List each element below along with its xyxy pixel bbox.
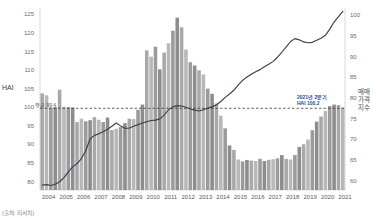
bar [293, 155, 297, 190]
average-annotation: 평균 99.4 [35, 101, 56, 108]
bar [315, 122, 319, 190]
bar [132, 119, 136, 190]
bar [337, 105, 341, 190]
bar [328, 106, 332, 190]
bar [71, 108, 75, 190]
latest-value-annotation: 2021년 2분기HAI 100.2 [297, 95, 327, 106]
bar [206, 89, 210, 190]
bar [302, 144, 306, 190]
bar [319, 116, 323, 190]
bar [245, 160, 249, 190]
chart-container: HAI 매매 가격 지수 12512011511010510095908580 … [0, 0, 376, 218]
bar [145, 50, 149, 190]
bar [119, 127, 123, 190]
bar [332, 105, 336, 190]
bar [341, 108, 345, 190]
bar [128, 119, 132, 190]
bar [254, 161, 258, 190]
bar [149, 57, 153, 190]
bar [215, 103, 219, 190]
bar [84, 121, 88, 190]
bar [162, 53, 166, 190]
bar [93, 117, 97, 190]
bar [219, 116, 223, 190]
bar [58, 90, 62, 190]
bar [67, 107, 71, 190]
bar [53, 107, 57, 190]
bar [167, 43, 171, 190]
bar [141, 105, 145, 190]
bar [154, 47, 158, 190]
bar [276, 158, 280, 190]
bar [114, 129, 118, 190]
bar [236, 160, 240, 190]
bar [250, 161, 254, 190]
bar [271, 159, 275, 190]
bar [202, 74, 206, 190]
bar [175, 18, 179, 190]
bar [223, 128, 227, 190]
bar [49, 108, 53, 190]
bar [193, 66, 197, 190]
bar [232, 150, 236, 190]
source-note: (출처: 리서치) [2, 208, 34, 217]
bar [297, 147, 301, 190]
bar [263, 161, 267, 190]
bar [171, 31, 175, 190]
bar [311, 130, 315, 190]
bar [228, 145, 232, 190]
bar [267, 160, 271, 190]
bar [88, 120, 92, 190]
bar [123, 123, 127, 190]
bar [97, 120, 101, 190]
bar [189, 62, 193, 190]
bar [45, 95, 49, 190]
bar [289, 160, 293, 190]
bar [306, 139, 310, 190]
plot-area [0, 0, 376, 218]
bar [324, 111, 328, 190]
bar [136, 110, 140, 190]
bar [197, 70, 201, 190]
bar [258, 159, 262, 190]
latest-annotation-line-2: HAI 100.2 [297, 101, 327, 107]
bar [241, 161, 245, 190]
bar [280, 155, 284, 190]
bar [158, 69, 162, 190]
bar [184, 50, 188, 190]
bar [75, 122, 79, 190]
bar [284, 159, 288, 190]
bar [80, 119, 84, 190]
bar [110, 130, 114, 190]
